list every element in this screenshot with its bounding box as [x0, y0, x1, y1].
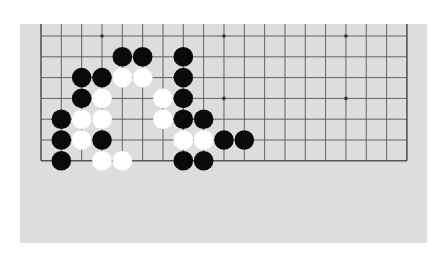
white-stone	[153, 109, 173, 129]
star-point-icon	[100, 34, 104, 38]
black-stone	[194, 151, 214, 171]
star-point-icon	[222, 34, 226, 38]
white-stone	[153, 89, 173, 109]
white-stone	[174, 130, 194, 150]
white-stone	[113, 151, 133, 171]
black-stone	[235, 130, 255, 150]
black-stone	[194, 109, 214, 129]
star-point-icon	[344, 34, 348, 38]
black-stone	[174, 47, 194, 67]
black-stone	[92, 68, 112, 88]
black-stone	[52, 109, 72, 129]
black-stone	[113, 47, 133, 67]
black-stone	[174, 89, 194, 109]
white-stone	[72, 109, 92, 129]
black-stone	[133, 47, 153, 67]
black-stone	[52, 130, 72, 150]
star-point-icon	[222, 97, 226, 101]
white-stone	[92, 151, 112, 171]
black-stone	[174, 151, 194, 171]
white-stone	[72, 130, 92, 150]
go-board[interactable]	[20, 24, 427, 243]
white-stone	[133, 68, 153, 88]
go-board-grid[interactable]	[20, 24, 427, 243]
black-stone	[92, 130, 112, 150]
black-stone	[52, 151, 72, 171]
black-stone	[72, 68, 92, 88]
white-stone	[92, 109, 112, 129]
white-stone	[194, 130, 214, 150]
white-stone	[92, 89, 112, 109]
white-stone	[113, 68, 133, 88]
black-stone	[174, 68, 194, 88]
black-stone	[174, 109, 194, 129]
black-stone	[214, 130, 234, 150]
star-point-icon	[344, 97, 348, 101]
black-stone	[72, 89, 92, 109]
